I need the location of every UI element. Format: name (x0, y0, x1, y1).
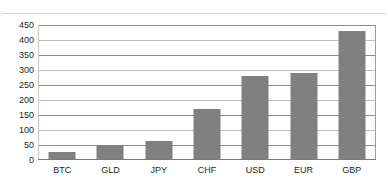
figure-top-rule (2, 13, 386, 14)
bar-series (38, 25, 376, 159)
bar-slot (183, 25, 231, 159)
bar-slot (279, 25, 327, 159)
y-axis-tick-label: 150 (2, 111, 34, 120)
y-axis-tick-label: 250 (2, 81, 34, 90)
x-axis-tick-label-usd: USD (231, 166, 279, 175)
bar-chf[interactable] (193, 109, 220, 159)
x-axis-tick-label-chf: CHF (183, 166, 231, 175)
bar-slot (86, 25, 134, 159)
y-axis-tick-label: 300 (2, 66, 34, 75)
bar-slot (135, 25, 183, 159)
x-axis-tick-label-jpy: JPY (135, 166, 183, 175)
x-axis-tick-label-eur: EUR (279, 166, 327, 175)
plot-area (38, 25, 376, 160)
y-axis-tick-label: 50 (2, 141, 34, 150)
bar-gbp[interactable] (338, 31, 365, 159)
x-axis-tick-label-gld: GLD (86, 166, 134, 175)
y-axis-tick-label: 350 (2, 51, 34, 60)
x-axis-baseline (38, 159, 376, 160)
y-axis-tick-label: 0 (2, 156, 34, 165)
bar-jpy[interactable] (145, 141, 172, 159)
y-axis-tick-label: 450 (2, 21, 34, 30)
x-axis-tick-label-gbp: GBP (328, 166, 376, 175)
bar-gld[interactable] (97, 145, 124, 159)
y-axis-tick-label: 400 (2, 36, 34, 45)
bar-chart: 450 400 350 300 250 200 150 100 50 0 (0, 0, 388, 193)
y-axis-tick-label: 100 (2, 126, 34, 135)
bar-eur[interactable] (290, 73, 317, 159)
bar-slot (38, 25, 86, 159)
bar-btc[interactable] (49, 152, 76, 159)
y-axis-tick-label: 200 (2, 96, 34, 105)
x-axis-tick-label-btc: BTC (38, 166, 86, 175)
bar-usd[interactable] (242, 76, 269, 159)
bar-slot (231, 25, 279, 159)
bar-slot (328, 25, 376, 159)
